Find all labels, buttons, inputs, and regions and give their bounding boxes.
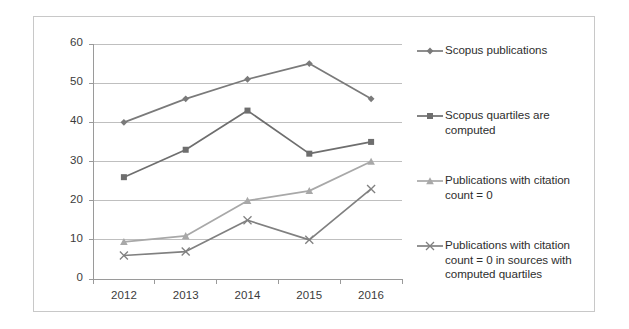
y-tick-label: 60 — [55, 36, 83, 48]
y-tick-label: 0 — [55, 271, 83, 283]
y-tick-label: 50 — [55, 75, 83, 87]
y-tick-label: 40 — [55, 114, 83, 126]
chart-legend: Scopus publicationsScopus quartiles are … — [412, 17, 596, 313]
data-point-diamond — [306, 60, 313, 67]
data-point-square — [427, 113, 433, 119]
line-chart-figure: 6050403020100 20122013201420152016 Scopu… — [33, 16, 595, 312]
data-point-x — [367, 185, 375, 193]
y-tick-label: 10 — [55, 232, 83, 244]
series-3 — [120, 158, 375, 245]
y-tick-label: 20 — [55, 193, 83, 205]
legend-label: Publications with citation count = 0 in … — [445, 238, 594, 282]
data-point-square — [245, 108, 251, 114]
legend-label: Scopus publications — [445, 43, 547, 58]
data-point-diamond — [121, 119, 128, 126]
plot-area: 6050403020100 20122013201420152016 — [34, 17, 412, 313]
series-1 — [121, 60, 375, 126]
legend-label: Publications with citation count = 0 — [445, 173, 594, 202]
data-point-diamond — [368, 95, 375, 102]
series-2 — [121, 108, 374, 181]
data-point-diamond — [427, 48, 434, 55]
y-tick-label: 30 — [55, 154, 83, 166]
data-point-square — [306, 151, 312, 157]
x-tick-label: 2012 — [101, 289, 147, 301]
legend-marker-triangle — [416, 174, 444, 188]
legend-label: Scopus quartiles are computed — [445, 108, 594, 137]
x-tick-label: 2016 — [348, 289, 394, 301]
series-4 — [120, 185, 375, 260]
data-series-group — [120, 60, 375, 259]
legend-marker-x — [416, 239, 444, 253]
plot-svg — [34, 17, 412, 313]
legend-entry[interactable]: Scopus publications — [416, 43, 594, 58]
legend-entry[interactable]: Publications with citation count = 0 in … — [416, 238, 594, 282]
series-line — [124, 111, 371, 178]
legend-entry[interactable]: Scopus quartiles are computed — [416, 108, 594, 137]
legend-marker-diamond — [416, 44, 444, 58]
x-tick-label: 2015 — [286, 289, 332, 301]
data-point-diamond — [244, 76, 251, 83]
data-point-square — [183, 147, 189, 153]
x-tick-label: 2013 — [163, 289, 209, 301]
chart-body: 6050403020100 20122013201420152016 Scopu… — [34, 17, 594, 311]
data-point-diamond — [182, 95, 189, 102]
legend-entry[interactable]: Publications with citation count = 0 — [416, 173, 594, 202]
legend-marker-square — [416, 109, 444, 123]
data-point-square — [121, 174, 127, 180]
x-tick-label: 2014 — [225, 289, 271, 301]
data-point-square — [368, 139, 374, 145]
